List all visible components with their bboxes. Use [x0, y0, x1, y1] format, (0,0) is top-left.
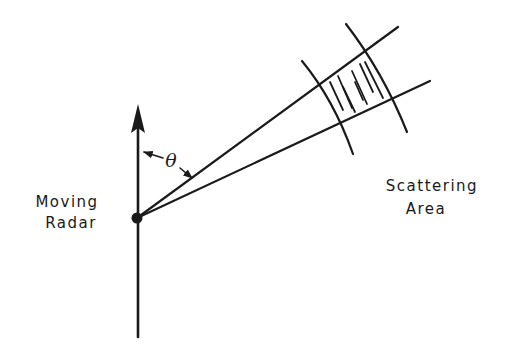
scattering-cell-hatching — [330, 62, 383, 112]
moving-radar-label-line2: Radar — [45, 214, 97, 232]
range-arc-near — [302, 61, 353, 154]
moving-radar-label-line1: Moving — [35, 193, 98, 211]
beam-lower-edge — [137, 81, 430, 218]
radar-position-dot — [132, 213, 143, 224]
beam-upper-edge — [137, 27, 398, 218]
scattering-area-label-line1: Scattering — [386, 177, 478, 195]
angle-theta-marker: θ — [144, 149, 192, 178]
scattering-area-label-line2: Area — [406, 200, 447, 218]
angle-theta-label: θ — [165, 149, 177, 171]
radar-scattering-diagram: θ Moving Radar Scattering Area — [0, 0, 515, 351]
